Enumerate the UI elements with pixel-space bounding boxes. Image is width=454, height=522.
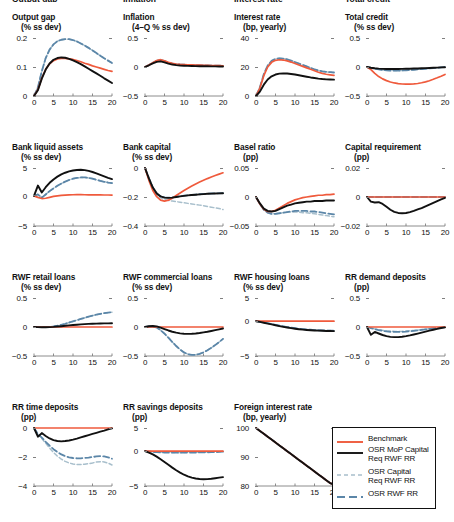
x-tick-label: 0 (254, 358, 258, 367)
x-tick-label: 5 (51, 98, 55, 107)
plot-area (256, 298, 334, 356)
panel-title: Inflation (123, 12, 154, 22)
y-tick-mark-right (442, 38, 445, 39)
y-tick-label: 0.1 (6, 63, 27, 72)
x-tick-label: 5 (162, 228, 166, 237)
y-tick-label: 0 (6, 191, 27, 200)
y-tick-label: 0 (228, 193, 249, 202)
legend-item-1[interactable]: OSR MoP Capital (337, 444, 429, 454)
x-tick-label: 5 (162, 488, 166, 497)
series-line (145, 168, 223, 209)
y-tick-mark (144, 197, 147, 198)
x-tick-label: 5 (273, 228, 277, 237)
x-tick-label: 20 (219, 358, 228, 367)
y-tick-mark-right (220, 298, 223, 299)
x-tick-label: 5 (162, 358, 166, 367)
y-tick-label: 0 (117, 447, 138, 456)
y-tick-label: −0.5 (339, 352, 360, 361)
x-tick-label: 10 (180, 98, 189, 107)
x-tick-label: 5 (384, 228, 388, 237)
panel-title: RR time deposits (12, 402, 78, 412)
plot-area (256, 38, 334, 96)
y-tick-mark (33, 38, 36, 39)
y-tick-mark (255, 356, 258, 357)
plot-area (367, 168, 445, 226)
x-tick-label: 5 (273, 98, 277, 107)
y-tick-label: 20 (228, 63, 249, 72)
legend-swatch (337, 488, 363, 498)
y-tick-label: 0 (117, 164, 138, 173)
y-tick-mark (366, 356, 369, 357)
series-line (145, 168, 223, 198)
cutoff-title-1: Inflation (123, 0, 156, 2)
x-tick-label: 0 (32, 228, 36, 237)
y-tick-mark (366, 38, 369, 39)
y-tick-mark (255, 67, 258, 68)
panel-subtitle: (% ss dev) (21, 22, 61, 32)
y-tick-label: 0 (339, 63, 360, 72)
x-tick-label: 10 (402, 98, 411, 107)
x-tick-label: 5 (273, 358, 277, 367)
x-tick-label: 15 (421, 98, 430, 107)
plot-area (34, 298, 112, 356)
y-tick-label: 0 (228, 317, 249, 326)
y-tick-mark (144, 67, 147, 68)
legend-item-2[interactable]: OSR Capital (337, 466, 411, 476)
x-tick-label: 10 (402, 358, 411, 367)
y-tick-mark (33, 356, 36, 357)
plot-area (145, 38, 223, 96)
legend-item-3[interactable]: OSR RWF RR (337, 488, 418, 498)
legend-swatch (337, 444, 363, 454)
y-tick-mark-right (109, 168, 112, 169)
panel-subtitle: (% ss dev) (354, 22, 394, 32)
y-tick-label: 0.5 (339, 34, 360, 43)
x-tick-label: 5 (273, 488, 277, 497)
x-tick-label: 15 (199, 228, 208, 237)
y-tick-mark (144, 428, 147, 429)
y-tick-mark-right (442, 168, 445, 169)
plot-area (367, 298, 445, 356)
y-tick-label: 100 (228, 424, 249, 433)
panel-subtitle: (% ss dev) (243, 282, 283, 292)
y-tick-mark-right (220, 428, 223, 429)
plot-area (34, 428, 112, 486)
y-tick-label: 0.5 (6, 294, 27, 303)
x-tick-label: 0 (254, 228, 258, 237)
x-tick-label: 0 (32, 358, 36, 367)
x-tick-label: 20 (330, 98, 339, 107)
y-tick-mark-right (331, 298, 334, 299)
y-tick-mark (255, 321, 258, 322)
panel-title: Total credit (345, 12, 388, 22)
y-tick-mark (255, 226, 258, 227)
x-tick-label: 15 (310, 358, 319, 367)
panel-title: Interest rate (234, 12, 280, 22)
y-tick-label: −5 (6, 222, 27, 231)
y-tick-mark-right (220, 168, 223, 169)
panel-title: Output gap (12, 12, 55, 22)
y-tick-mark-right (109, 38, 112, 39)
x-tick-label: 20 (219, 488, 228, 497)
panel-title: Bank capital (123, 142, 171, 152)
x-tick-label: 15 (199, 98, 208, 107)
x-tick-label: 0 (254, 98, 258, 107)
panel-subtitle: (bp, yearly) (243, 412, 286, 422)
legend-swatch (337, 466, 363, 476)
x-tick-label: 15 (310, 98, 319, 107)
y-tick-label: −2 (6, 453, 27, 462)
y-tick-mark (366, 67, 369, 68)
x-tick-label: 0 (143, 358, 147, 367)
y-tick-mark (144, 38, 147, 39)
x-tick-label: 10 (291, 358, 300, 367)
y-tick-label: 5 (6, 164, 27, 173)
legend-item-0[interactable]: Benchmark (337, 433, 407, 443)
y-tick-mark (33, 195, 36, 196)
x-tick-label: 0 (143, 488, 147, 497)
x-tick-label: 0 (254, 488, 258, 497)
y-tick-mark (144, 486, 147, 487)
x-tick-label: 10 (291, 488, 300, 497)
legend-label: OSR Capital (368, 467, 411, 476)
y-tick-mark-right (442, 298, 445, 299)
x-tick-label: 10 (402, 228, 411, 237)
x-tick-label: 15 (88, 228, 97, 237)
